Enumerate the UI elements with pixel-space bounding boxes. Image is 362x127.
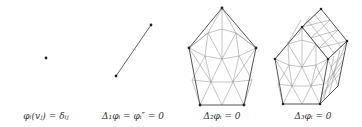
caption-segment: Δ₁φᵢ = φᵢ″ = 0 [102, 111, 164, 121]
panel-segment [115, 24, 153, 78]
prism-vertices [274, 8, 349, 106]
caption-point: φᵢ(vⱼ) = δᵢⱼ [23, 111, 68, 121]
panel-pentagon [188, 7, 258, 107]
pentagon-boundary [189, 8, 256, 105]
prism-mesh [275, 9, 347, 104]
prism-edges [275, 9, 347, 104]
caption-prism: Δ₃φᵢ = 0 [294, 111, 331, 121]
segment-endpoint [115, 75, 118, 78]
caption-pentagon: Δ₂φᵢ = 0 [203, 111, 240, 121]
panel-point [45, 57, 48, 60]
vertex-dot [45, 57, 48, 60]
pentagon-mesh [189, 8, 256, 105]
segment-endpoint [150, 24, 153, 27]
segment-line [116, 25, 151, 76]
panel-prism [274, 8, 349, 106]
laplacian-dimensions-figure [0, 0, 362, 127]
